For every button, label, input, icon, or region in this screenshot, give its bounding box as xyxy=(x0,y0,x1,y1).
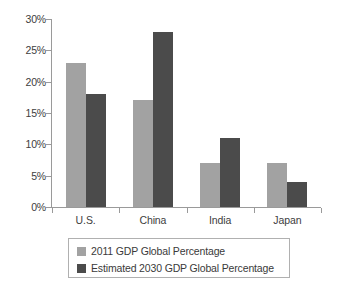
bar-group xyxy=(66,19,106,207)
y-axis-tick-mark xyxy=(46,144,51,145)
y-axis-tick-mark xyxy=(46,113,51,114)
legend-label: 2011 GDP Global Percentage xyxy=(91,245,225,257)
y-axis-tick-mark xyxy=(46,19,51,20)
bar xyxy=(153,32,173,207)
y-axis-tick-label: 20% xyxy=(8,77,46,87)
bar xyxy=(66,63,86,207)
chart-legend: 2011 GDP Global PercentageEstimated 2030… xyxy=(68,238,290,278)
bars-area xyxy=(52,19,321,207)
bar xyxy=(86,94,106,207)
x-axis-tick-mark xyxy=(187,208,188,213)
y-axis-tick-label: 30% xyxy=(8,14,46,24)
bar-group xyxy=(133,19,173,207)
y-axis-tick-label: 15% xyxy=(8,108,46,118)
legend-label: Estimated 2030 GDP Global Percentage xyxy=(91,262,274,274)
bar-group xyxy=(200,19,240,207)
y-axis-tick-labels: 0%5%10%15%20%25%30% xyxy=(8,12,46,208)
legend-swatch-icon xyxy=(77,264,86,273)
gdp-bar-chart: 0%5%10%15%20%25%30% U.S.ChinaIndiaJapan … xyxy=(0,0,343,286)
y-axis-tick-label: 10% xyxy=(8,139,46,149)
y-axis-tick-mark xyxy=(46,50,51,51)
y-axis-tick-label: 25% xyxy=(8,45,46,55)
bar xyxy=(200,163,220,207)
x-axis-category-label: China xyxy=(119,214,186,226)
y-axis-tick-label: 0% xyxy=(8,202,46,212)
x-axis-category-label: Japan xyxy=(254,214,321,226)
bar-group xyxy=(267,19,307,207)
bar xyxy=(133,100,153,207)
y-axis-tick-label: 5% xyxy=(8,171,46,181)
x-axis-category-label: U.S. xyxy=(52,214,119,226)
legend-item: 2011 GDP Global Percentage xyxy=(77,243,289,259)
y-axis-tick-mark xyxy=(46,207,51,208)
plot-area: 0%5%10%15%20%25%30% U.S.ChinaIndiaJapan xyxy=(0,0,343,232)
x-axis-category-label: India xyxy=(187,214,254,226)
bar xyxy=(267,163,287,207)
x-axis-tick-mark xyxy=(52,208,53,213)
legend-swatch-icon xyxy=(77,247,86,256)
x-axis-tick-mark xyxy=(321,208,322,213)
x-axis-tick-mark xyxy=(119,208,120,213)
y-axis-tick-mark xyxy=(46,176,51,177)
bar xyxy=(287,182,307,207)
y-axis-tick-mark xyxy=(46,82,51,83)
legend-item: Estimated 2030 GDP Global Percentage xyxy=(77,260,289,276)
bar xyxy=(220,138,240,207)
x-axis-tick-mark xyxy=(254,208,255,213)
